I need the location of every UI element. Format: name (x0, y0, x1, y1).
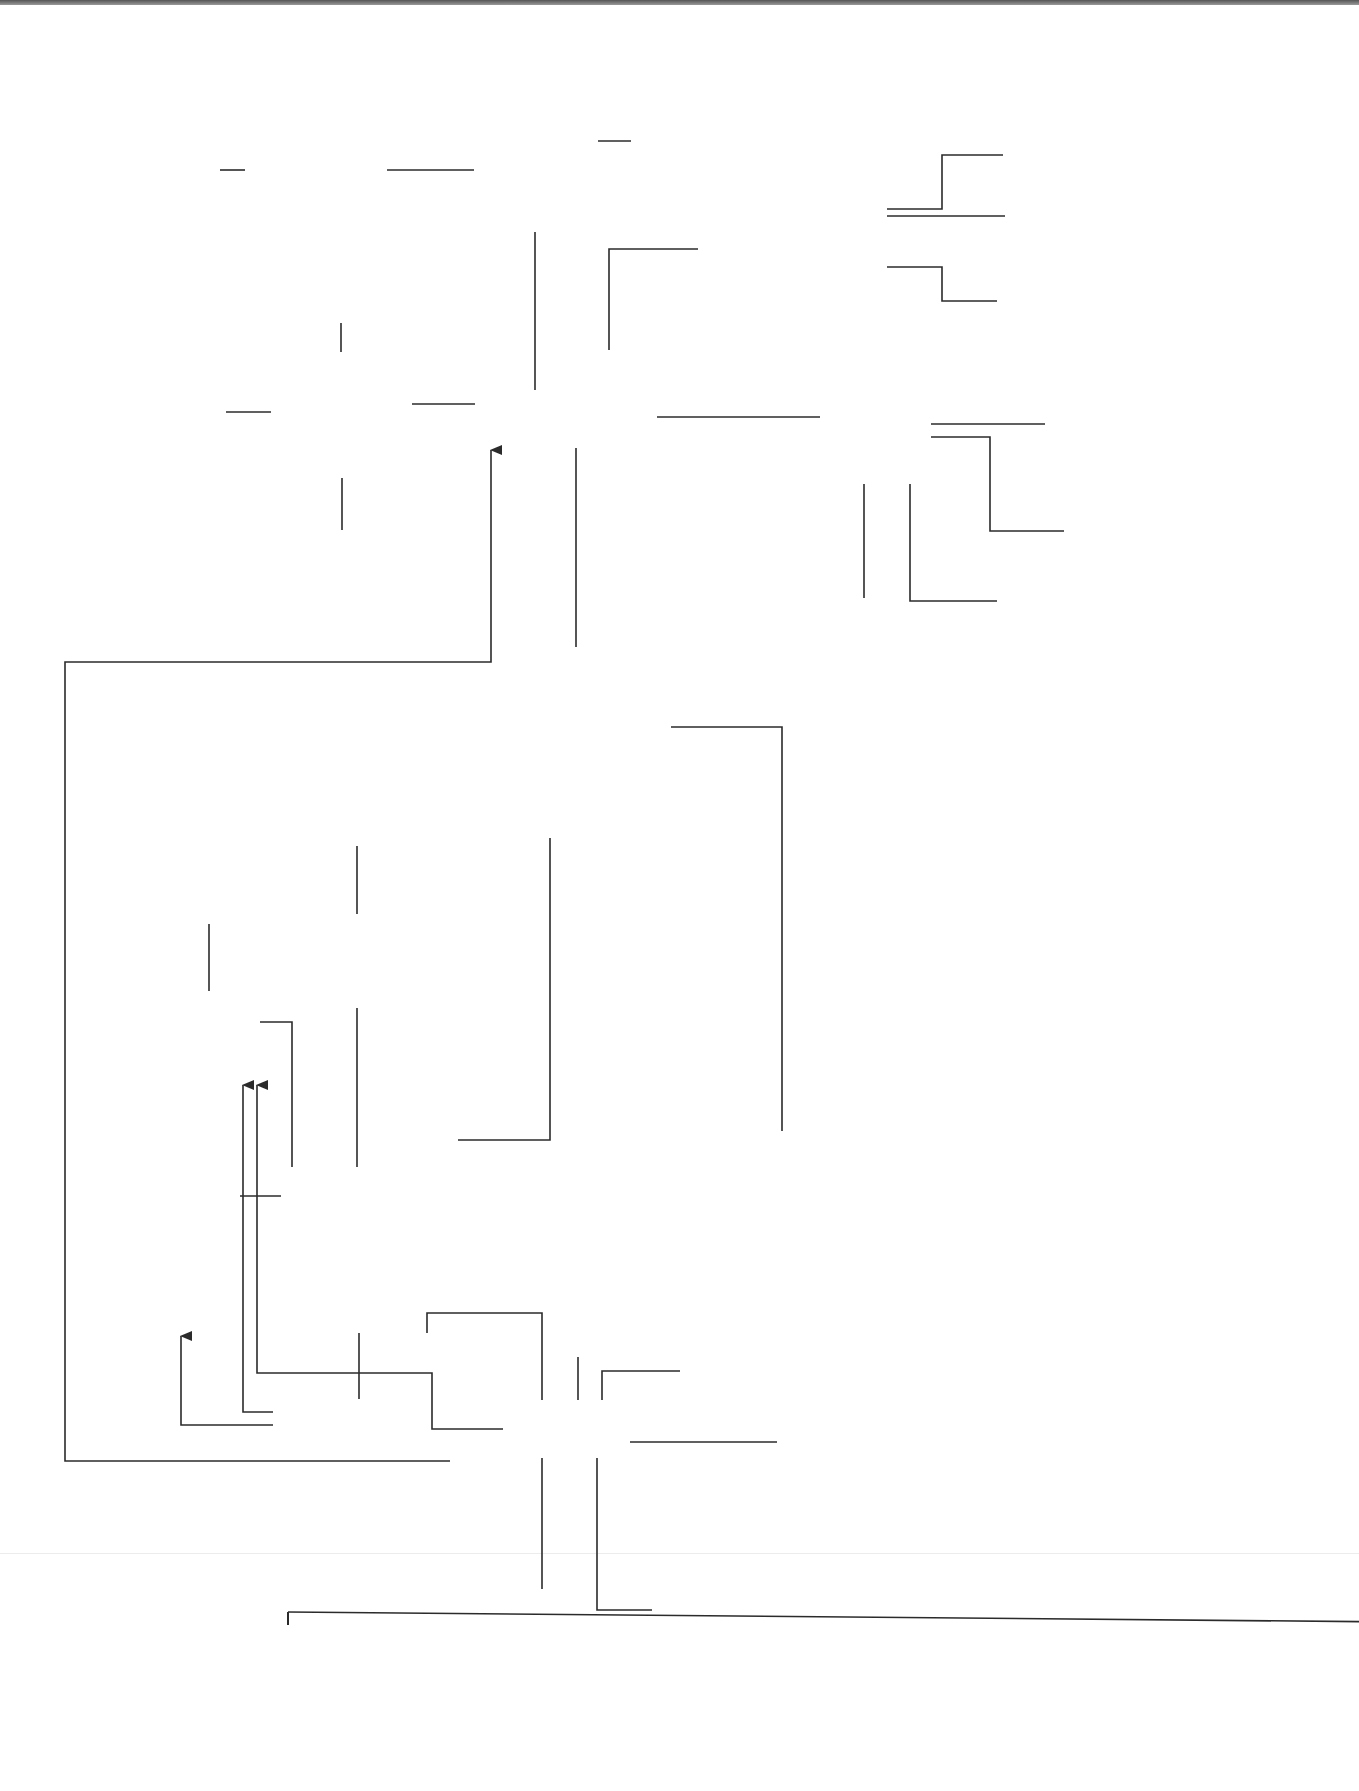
connector-lines (0, 0, 1359, 1791)
